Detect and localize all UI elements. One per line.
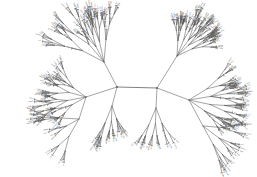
- leaf-label: zala: [26, 117, 29, 119]
- tree-diagram: rotyptvkqucerxtftxsommzuefoqgpqwlnohdmmh…: [0, 0, 257, 177]
- tree-hub-node: [156, 87, 158, 89]
- leaf-label: tqe: [167, 145, 169, 148]
- leaf-label: cdn: [29, 112, 32, 114]
- leaf-label: orhx: [157, 144, 159, 147]
- leaf-label: ogc: [103, 17, 105, 20]
- leaf-label: izxo: [102, 9, 104, 12]
- leaf-label: qnp: [238, 85, 241, 87]
- leaf-label: hpjkf: [105, 24, 107, 28]
- leaf-label: vrx: [234, 111, 237, 113]
- leaf-label: bifv: [98, 148, 100, 151]
- leaf-label: pjfes: [113, 135, 115, 139]
- leaf-label: ugnrb: [29, 100, 33, 102]
- tree-hub-node: [116, 86, 118, 88]
- leaf-label: dohv: [93, 4, 95, 8]
- phylogenetic-tree-figure: rotyptvkqucerxtftxsommzuefoqgpqwlnohdmmh…: [0, 0, 257, 177]
- leaf-label: sgmhfr: [247, 123, 253, 125]
- leaf-label: yptv: [42, 42, 45, 44]
- leaf-label: slu: [42, 89, 45, 91]
- leaf-label: xhho: [231, 96, 235, 98]
